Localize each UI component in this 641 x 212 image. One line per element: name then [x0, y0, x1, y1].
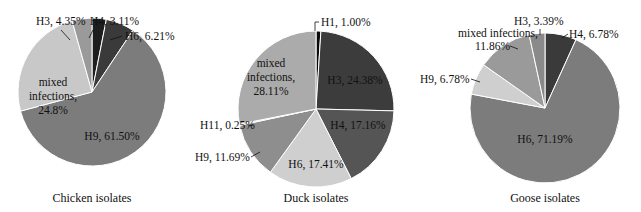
chicken-label-mixed-3: 24.8% [38, 104, 68, 116]
chicken-caption: Chicken isolates [53, 191, 132, 205]
chicken-label-mixed-1: mixed [39, 76, 68, 88]
goose-caption: Goose isolates [510, 191, 580, 205]
goose-label-h4: H4, 6.78% [569, 28, 619, 41]
goose-label-h9: H9, 6.78% [420, 73, 470, 86]
duck-label-h3: H3, 24.38% [327, 74, 383, 87]
goose-label-mixed-1: mixed infections, [458, 27, 538, 40]
chicken-label-h3: H3, 4.35% [36, 15, 86, 28]
duck-label-h1: H1, 1.00% [321, 16, 371, 29]
goose-pie-chart [470, 33, 620, 183]
chicken-label-mixed-2: infections, [29, 90, 77, 103]
duck-label-h11: H11, 0.25% [200, 119, 255, 132]
goose-label-h6: H6, 71.19% [517, 133, 573, 146]
duck-label-mixed-2: infections, [247, 71, 295, 84]
duck-label-mixed-3: 28.11% [253, 85, 288, 97]
goose-label-h3: H3, 3.39% [514, 15, 564, 28]
duck-label-h9: H9, 11.69% [195, 151, 250, 164]
pie-slice-h3 [316, 31, 394, 111]
chicken-label-h9: H9, 61.50% [84, 130, 140, 143]
duck-caption: Duck isolates [284, 191, 349, 205]
duck-label-mixed-1: mixed [257, 57, 286, 69]
duck-label-h6: H6, 17.41% [288, 158, 344, 171]
chicken-label-h4: H4, 3.11% [90, 15, 140, 28]
duck-label-h4: H4, 17.16% [330, 119, 386, 132]
duck-leader-h1 [315, 22, 319, 31]
pie-charts-figure: H3, 4.35% H4, 3.11% H6, 6.21% mixed infe… [0, 0, 641, 212]
goose-label-mixed-2: 11.86% [475, 40, 510, 52]
chicken-label-h6: H6, 6.21% [125, 30, 175, 43]
